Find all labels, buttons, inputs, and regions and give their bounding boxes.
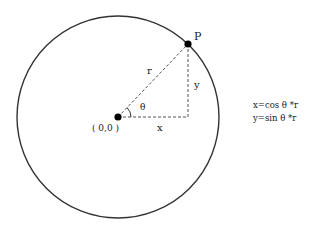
y-label: y (193, 79, 200, 90)
point-label: P (194, 30, 202, 43)
point-p-dot (184, 40, 191, 47)
angle-arc (127, 108, 131, 117)
formula-y: y=sin θ *r (252, 113, 297, 123)
radius-line (118, 44, 188, 117)
formula-x: x=cos θ *r (253, 100, 299, 110)
radius-label: r (147, 65, 152, 76)
origin-label: ( 0,0 ) (92, 123, 119, 133)
angle-label: θ (140, 102, 145, 112)
unit-circle-diagram: P r y x θ ( 0,0 ) x=cos θ *r y=sin θ *r (0, 0, 314, 226)
x-label: x (157, 122, 163, 133)
origin-dot (114, 113, 121, 120)
